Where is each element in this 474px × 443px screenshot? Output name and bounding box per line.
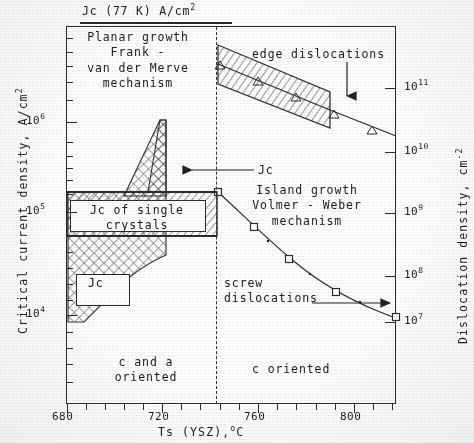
left-axis-minor-tick — [66, 180, 73, 181]
bottom-axis-minor-tick — [335, 404, 336, 410]
bottom-axis-minor-tick — [220, 404, 221, 410]
bottom-axis-tick-label: 680 — [52, 410, 73, 425]
left-axis-major-tick — [66, 122, 77, 123]
left-axis-minor-tick — [66, 252, 73, 253]
right-axis-tick-label: 108 — [404, 268, 424, 283]
bottom-axis-tick-label: 760 — [244, 410, 265, 425]
bottom-axis-minor-tick — [373, 404, 374, 410]
data-point-marker — [393, 314, 400, 321]
left-axis-minor-tick — [66, 268, 73, 269]
planar-growth-annotation: Planar growth Frank - van der Merve mech… — [68, 30, 208, 92]
left-axis-minor-tick — [66, 82, 73, 83]
bottom-axis-minor-tick — [277, 404, 278, 410]
bottom-axis-minor-tick — [316, 404, 317, 410]
right-axis-tick-label: 1011 — [404, 80, 429, 95]
jc-single-crystals-label: Jc of single crystals — [70, 203, 204, 234]
bottom-axis-minor-tick — [143, 404, 144, 410]
bottom-axis-minor-tick — [86, 404, 87, 410]
edge-dislocations-label: edge dislocations — [252, 47, 385, 62]
right-axis-major-tick — [385, 322, 396, 323]
left-axis-minor-tick — [66, 168, 73, 169]
region-c-oriented-label: c oriented — [252, 362, 330, 377]
bottom-axis-minor-tick — [239, 404, 240, 410]
region-c-and-a-oriented-label: c and a oriented — [96, 355, 196, 386]
left-axis-minor-tick — [66, 348, 73, 349]
right-axis-major-tick — [385, 88, 396, 89]
left-axis-minor-tick — [66, 194, 73, 195]
right-axis-tick-label: 1010 — [404, 144, 429, 159]
right-axis-major-tick — [385, 152, 396, 153]
screw-dislocations-label: screw dislocations — [224, 276, 318, 307]
jc-box-label: Jc — [88, 276, 104, 291]
left-axis-minor-tick — [66, 100, 73, 101]
y-axis-right-label: Dislocation density, cm-2 — [456, 147, 471, 344]
bottom-axis-minor-tick — [105, 404, 106, 410]
left-axis-minor-tick — [66, 66, 73, 67]
left-axis-minor-tick — [66, 236, 73, 237]
x-axis-label: Ts (YSZ),oC — [158, 425, 244, 440]
bottom-axis-minor-tick — [392, 404, 393, 410]
jc-center-label: Jc — [258, 163, 274, 178]
left-axis-minor-tick — [66, 156, 73, 157]
bottom-axis-minor-tick — [200, 404, 201, 410]
island-growth-annotation: Island growth Volmer - Weber mechanism — [232, 183, 382, 229]
bottom-axis-minor-tick — [181, 404, 182, 410]
right-axis-major-tick — [385, 213, 396, 214]
data-point-marker — [333, 289, 340, 296]
left-axis-minor-tick — [66, 382, 73, 383]
left-axis-minor-tick — [66, 300, 73, 301]
bottom-axis-tick-label: 720 — [148, 410, 169, 425]
bottom-axis-minor-tick — [296, 404, 297, 410]
growth-mode-divider — [216, 27, 217, 404]
left-axis-major-tick — [66, 212, 77, 213]
right-axis-tick-label: 107 — [404, 314, 424, 329]
bottom-axis-minor-tick — [124, 404, 125, 410]
data-point-marker — [286, 256, 293, 263]
right-axis-tick-label: 109 — [404, 205, 424, 220]
left-axis-minor-tick — [66, 332, 73, 333]
left-axis-minor-tick — [66, 142, 73, 143]
left-axis-minor-tick — [66, 52, 73, 53]
left-axis-minor-tick — [66, 364, 73, 365]
left-axis-minor-tick — [66, 284, 73, 285]
y-axis-left-label: Critical current density, A/cm2 — [16, 87, 31, 334]
left-axis-minor-tick — [66, 38, 73, 39]
bottom-axis-tick-label: 800 — [340, 410, 361, 425]
figure-canvas: Jc (77 K) A/cm2 — [0, 0, 474, 443]
right-axis-major-tick — [385, 276, 396, 277]
left-axis-major-tick — [66, 315, 77, 316]
